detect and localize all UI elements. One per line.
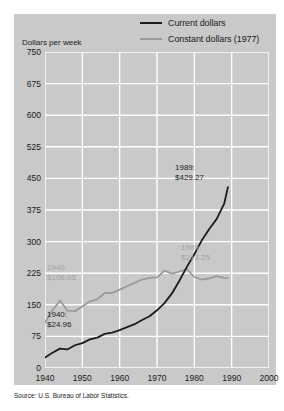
annotation-value: $108.05 (47, 273, 76, 283)
legend-item-current: Current dollars (140, 16, 280, 30)
annotation-constant-1940: 1940:$108.05 (47, 263, 76, 282)
y-tick-label: 600 (27, 110, 41, 120)
x-tick-label: 2000 (260, 373, 279, 383)
y-tick-label: 675 (27, 79, 41, 89)
source-note: Source: U.S. Bureau of Labor Statistics. (14, 392, 129, 399)
chart-legend: Current dollars Constant dollars (1977) (140, 16, 280, 46)
y-tick-label: 300 (27, 237, 41, 247)
y-tick-label: 75 (32, 331, 41, 341)
annotation-year: 1989: (181, 243, 210, 253)
x-tick-label: 1950 (73, 373, 92, 383)
y-tick-label: 375 (27, 205, 41, 215)
annotation-year: 1940: (47, 310, 71, 320)
annotation-value: $429.27 (175, 173, 204, 183)
plot-area: 075150225300375450525600675750 194019501… (45, 52, 269, 368)
annotation-value: $24.96 (47, 320, 71, 330)
legend-item-constant: Constant dollars (1977) (140, 32, 280, 46)
annotation-constant-1989: 1989:$213.25 (181, 243, 210, 262)
legend-swatch-constant-icon (140, 38, 162, 40)
gridlines (45, 52, 269, 368)
y-tick-label: 750 (27, 47, 41, 57)
x-tick-label: 1970 (148, 373, 167, 383)
y-tick-label: 450 (27, 173, 41, 183)
annotation-year: 1940: (47, 263, 76, 273)
x-tick-label: 1980 (185, 373, 204, 383)
y-tick-label: 225 (27, 268, 41, 278)
x-tick-label: 1940 (36, 373, 55, 383)
legend-swatch-current-icon (140, 22, 162, 24)
legend-label-constant: Constant dollars (1977) (168, 34, 259, 44)
y-axis-title: Dollars per week (22, 38, 82, 47)
annotation-current-1940: 1940:$24.96 (47, 310, 71, 329)
y-tick-label: 150 (27, 300, 41, 310)
plot-svg (45, 52, 269, 368)
y-tick-label: 525 (27, 142, 41, 152)
legend-label-current: Current dollars (168, 18, 226, 28)
chart-figure: Current dollars Constant dollars (1977) … (0, 0, 284, 411)
annotation-year: 1989: (175, 163, 204, 173)
y-tick-label: 0 (36, 363, 41, 373)
x-tick-label: 1960 (110, 373, 129, 383)
annotation-value: $213.25 (181, 253, 210, 263)
annotation-current-1989: 1989:$429.27 (175, 163, 204, 182)
x-tick-label: 1990 (222, 373, 241, 383)
